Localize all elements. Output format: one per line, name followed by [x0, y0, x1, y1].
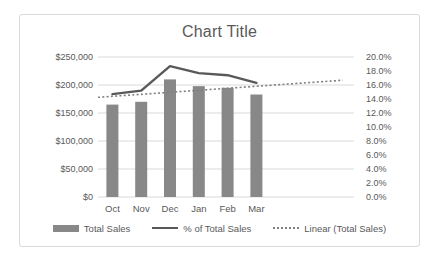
category-label: Oct [105, 203, 120, 214]
legend-item-total-sales[interactable]: Total Sales [53, 223, 130, 234]
bar-total-sales[interactable] [250, 95, 262, 197]
legend-item-linear-trendline[interactable]: Linear (Total Sales) [273, 223, 386, 234]
bar-total-sales[interactable] [193, 86, 205, 197]
left-axis-tick-label: $250,000 [55, 52, 93, 62]
right-axis-tick-label: 12.0% [366, 108, 392, 118]
legend-label: Linear (Total Sales) [304, 223, 386, 234]
left-axis-tick-label: $200,000 [55, 80, 93, 90]
plot-area: $0$50,000$100,000$150,000$200,000$250,00… [20, 15, 419, 246]
legend-label: % of Total Sales [183, 223, 251, 234]
category-label: Jan [191, 203, 206, 214]
category-label: Nov [133, 203, 150, 214]
bar-total-sales[interactable] [106, 105, 118, 197]
category-label: Dec [162, 203, 179, 214]
left-axis-tick-label: $50,000 [60, 164, 93, 174]
legend-item-percent-of-total-sales[interactable]: % of Total Sales [152, 223, 251, 234]
category-label: Feb [219, 203, 235, 214]
left-axis-tick-label: $0 [83, 192, 93, 202]
trendline-linear-total-sales[interactable] [98, 80, 343, 97]
right-axis-tick-label: 14.0% [366, 94, 392, 104]
bar-swatch-icon [53, 225, 79, 232]
right-axis-tick-label: 10.0% [366, 122, 392, 132]
right-axis-tick-label: 0.0% [366, 192, 387, 202]
left-axis-tick-label: $100,000 [55, 136, 93, 146]
right-axis-tick-label: 8.0% [366, 136, 387, 146]
category-label: Mar [248, 203, 264, 214]
right-axis-tick-label: 6.0% [366, 150, 387, 160]
right-axis-tick-label: 16.0% [366, 80, 392, 90]
legend-label: Total Sales [84, 223, 130, 234]
bar-total-sales[interactable] [164, 79, 176, 197]
left-axis-tick-label: $150,000 [55, 108, 93, 118]
screenshot-root: Chart Title $0$50,000$100,000$150,000$20… [0, 0, 439, 261]
line-percent-of-total-sales[interactable] [112, 66, 256, 94]
right-axis-tick-label: 2.0% [366, 178, 387, 188]
right-axis-tick-label: 4.0% [366, 164, 387, 174]
right-axis-tick-label: 18.0% [366, 66, 392, 76]
bar-total-sales[interactable] [135, 102, 147, 197]
legend: Total Sales % of Total Sales Linear (Tot… [20, 219, 419, 237]
right-axis-tick-label: 20.0% [366, 52, 392, 62]
chart-area[interactable]: Chart Title $0$50,000$100,000$150,000$20… [19, 14, 420, 247]
bar-total-sales[interactable] [222, 88, 234, 197]
dotted-swatch-icon [273, 227, 299, 229]
line-swatch-icon [152, 227, 178, 230]
